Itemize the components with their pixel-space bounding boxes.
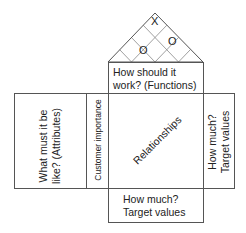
attributes-label-line2: like? (Attributes) (50, 98, 63, 194)
right-targets-line1: How much? (206, 94, 219, 190)
functions-box: How should it work? (Functions) (108, 62, 204, 94)
functions-label-line1: How should it (113, 66, 176, 78)
right-targets-label: How much? Target values (206, 94, 234, 190)
right-targets-box: How much? Target values (203, 93, 235, 189)
attributes-box: What must it be like? (Attributes) (14, 93, 87, 189)
attributes-label: What must it be like? (Attributes) (37, 98, 65, 194)
customer-importance-label: Customer importance (92, 92, 104, 188)
bottom-targets-box: How much? Target values (108, 188, 204, 223)
bottom-targets-line1: How much? (123, 193, 178, 205)
customer-importance-box: Customer importance (86, 93, 109, 189)
functions-label-line2: work? (Functions) (113, 79, 196, 91)
roof-mark-o: O (139, 44, 148, 56)
bottom-targets-line2: Target values (123, 206, 185, 218)
relationships-matrix: Relationships (108, 93, 204, 189)
relationships-label: Relationships (124, 107, 189, 172)
roof-mark-x: X (151, 15, 158, 27)
roof-mark-o: O (168, 35, 177, 47)
right-targets-line2: Target values (219, 94, 232, 190)
attributes-label-line1: What must it be (37, 98, 50, 194)
